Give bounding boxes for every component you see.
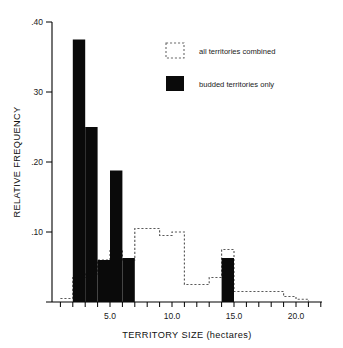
bar-6-7: [122, 258, 134, 302]
y-axis-tick-labels: .10 .20 30 .40: [31, 17, 43, 237]
bar-4-5: [98, 260, 110, 302]
legend-label-all-territories: all territories combined: [199, 47, 275, 56]
y-tick-label-2: 30: [34, 87, 44, 97]
chart-canvas: .10 .20 30 .40: [0, 0, 343, 348]
x-axis-tick-labels: 5.0 10.0 15.0 20.0: [104, 311, 304, 321]
x-axis-title: TERRITORY SIZE (hectares): [122, 330, 251, 340]
y-axis-ticks: [46, 22, 52, 302]
x-tick-label-0: 5.0: [104, 311, 116, 321]
y-axis-title: RELATIVE FREQUENCY: [12, 106, 22, 217]
series-budded-territories-bars: [73, 40, 234, 303]
chart-legend: all territories combined budded territor…: [166, 43, 275, 91]
bar-2-3: [73, 40, 85, 303]
legend-swatch-all-territories: [166, 43, 184, 58]
bar-3-4: [85, 127, 97, 302]
y-tick-label-1: .20: [31, 157, 43, 167]
x-axis-minor-ticks: [60, 302, 320, 307]
y-tick-label-0: .10: [31, 227, 43, 237]
legend-swatch-budded-territories: [166, 76, 184, 91]
x-tick-label-3: 20.0: [288, 311, 305, 321]
bar-14-15: [222, 258, 234, 302]
bar-5-6: [110, 171, 122, 303]
y-tick-label-3: .40: [31, 17, 43, 27]
x-tick-label-2: 15.0: [226, 311, 243, 321]
histogram-figure: .10 .20 30 .40: [0, 0, 343, 348]
legend-label-budded-territories: budded territories only: [199, 80, 274, 89]
x-tick-label-1: 10.0: [164, 311, 181, 321]
